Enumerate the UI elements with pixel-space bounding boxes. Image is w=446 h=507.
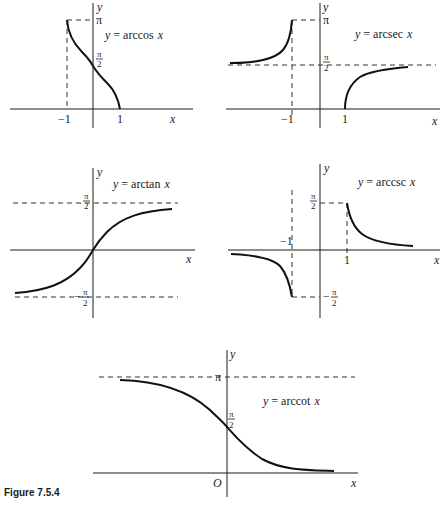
curve-arccsc-left xyxy=(231,254,292,297)
tick-half-pi-num: π xyxy=(229,409,234,419)
tick-neg-one: −1 xyxy=(58,112,71,126)
x-axis-label: x xyxy=(185,252,192,266)
y-axis-label: y xyxy=(322,0,329,14)
tick-half-pi-num: π xyxy=(311,191,316,201)
tick-half-pi-num: π xyxy=(84,191,89,201)
graph-arcsec: y π π 2 −1 1 x y=arcsecx xyxy=(226,0,440,128)
y-axis-label: y xyxy=(229,347,236,361)
curve-arccsc-right xyxy=(347,203,413,246)
graph-arccos: y π π 2 −1 1 x y=arccosx xyxy=(10,0,193,128)
curve-arcsec-right xyxy=(345,67,408,109)
equation-label: y=arccotx xyxy=(262,394,320,408)
y-axis-label: y xyxy=(96,165,103,179)
equation-label: y=arccosx xyxy=(104,28,164,42)
figure-canvas: y π π 2 −1 1 x y=arccosx y π π 2 −1 1 x … xyxy=(0,0,446,507)
tick-neg-one: −1 xyxy=(280,234,293,248)
tick-half-pi-den: 2 xyxy=(324,63,329,73)
x-axis-label: x xyxy=(350,476,357,490)
tick-neg-half-pi-den: 2 xyxy=(332,298,337,308)
origin-label: O xyxy=(213,476,222,490)
tick-pi: π xyxy=(215,370,221,384)
tick-neg-sign: − xyxy=(323,289,330,303)
x-axis-label: x xyxy=(431,114,438,128)
tick-one: 1 xyxy=(117,112,123,126)
tick-one: 1 xyxy=(342,112,348,126)
graph-arccsc: y π 2 −1 1 − π 2 x y=arccscx xyxy=(228,161,440,318)
figure-caption: Figure 7.5.4 xyxy=(4,487,60,498)
tick-half-pi-den: 2 xyxy=(311,201,316,211)
x-axis-label: x xyxy=(169,112,176,126)
tick-neg-half-pi-num: π xyxy=(332,287,337,297)
tick-half-pi-num: π xyxy=(324,52,329,62)
tick-pi: π xyxy=(96,13,102,27)
tick-half-pi-den: 2 xyxy=(97,59,102,69)
tick-neg-one: −1 xyxy=(281,112,294,126)
graph-arccot: y π π 2 O x y=arccotx xyxy=(93,347,358,497)
x-axis-label: x xyxy=(433,253,440,267)
curve-arcsec-left xyxy=(230,20,292,63)
equation-label: y=arctanx xyxy=(112,177,170,191)
equation-label: y=arccscx xyxy=(357,175,416,189)
tick-neg-half-pi-num: π xyxy=(83,287,88,297)
tick-pi: π xyxy=(323,13,329,27)
tick-neg-half-pi-den: 2 xyxy=(83,298,88,308)
tick-half-pi-den: 2 xyxy=(229,420,234,430)
graph-arctan: y π 2 − π 2 x y=arctanx xyxy=(10,165,195,318)
tick-half-pi-den: 2 xyxy=(84,201,89,211)
y-axis-label: y xyxy=(323,161,330,175)
tick-half-pi-num: π xyxy=(97,49,102,59)
equation-label: y=arcsecx xyxy=(354,27,413,41)
tick-one: 1 xyxy=(344,253,350,267)
tick-neg-sign: − xyxy=(74,289,81,303)
y-axis-label: y xyxy=(96,0,103,14)
